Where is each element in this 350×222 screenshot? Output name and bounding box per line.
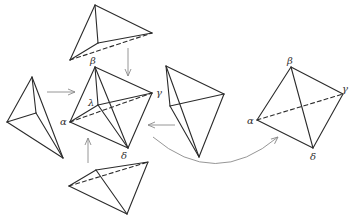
label-beta: β xyxy=(89,55,96,66)
label-delta: δ xyxy=(310,151,316,162)
right-tetrahedron-piece xyxy=(166,66,224,157)
label-beta: β xyxy=(286,55,293,66)
top-tetrahedron-piece xyxy=(70,5,152,60)
label-delta: δ xyxy=(121,150,127,161)
label-lambda: λ xyxy=(87,97,94,108)
curved-arrow-icon xyxy=(153,137,278,164)
diagram-canvas: β γ λ α δ β γ α δ xyxy=(0,0,350,222)
left-tetrahedron-piece xyxy=(7,77,63,158)
label-alpha: α xyxy=(247,115,254,126)
label-alpha: α xyxy=(60,116,67,127)
bottom-tetrahedron-piece xyxy=(69,162,148,214)
result-tetrahedron: β γ α δ xyxy=(247,55,348,162)
label-gamma: γ xyxy=(342,83,348,94)
label-gamma: γ xyxy=(156,87,162,98)
central-tetrahedron: β γ λ α δ xyxy=(60,55,162,161)
